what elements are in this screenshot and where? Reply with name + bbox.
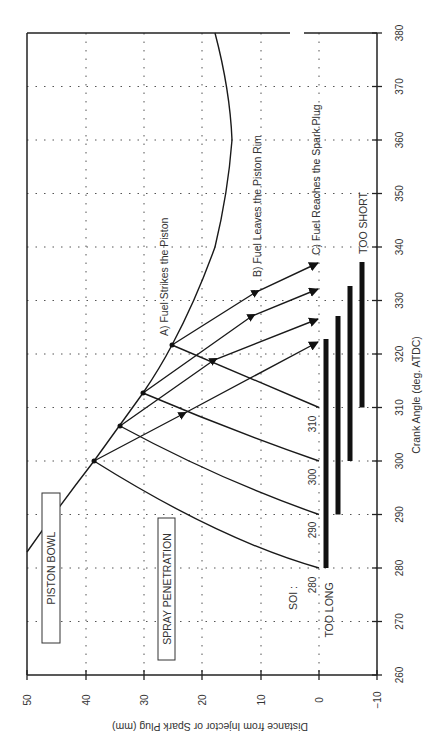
y-tick-10: 10	[256, 694, 267, 706]
spray-penetration-curves	[94, 345, 319, 568]
distance-tick-labels: 50 40 30 20 10 0 −10	[22, 691, 383, 708]
soi-300-label: 300	[307, 468, 318, 485]
too-short-label: TOO SHORT	[357, 191, 369, 254]
bar-soi-310	[360, 262, 365, 408]
x-tick-360: 360	[394, 131, 405, 148]
piston-bowl-curve	[27, 33, 232, 552]
y-axis-title: Distance from Injector or Spark Plug (mm…	[112, 721, 308, 733]
x-tick-260: 260	[394, 666, 405, 683]
svg-text:SPRAY PENETRATION: SPRAY PENETRATION	[161, 533, 173, 644]
x-tick-380: 380	[394, 24, 405, 41]
x-tick-370: 370	[394, 78, 405, 95]
x-axis-title: Crank Angle (deg. ATDC)	[410, 336, 422, 454]
y-tick-50: 50	[22, 694, 33, 706]
bar-soi-300	[348, 286, 353, 461]
soi-280-label: 280	[307, 576, 318, 593]
bar-soi-290	[336, 316, 341, 515]
y-tick-minus10: −10	[372, 691, 383, 708]
x-tick-300: 300	[394, 452, 405, 469]
x-tick-350: 350	[394, 185, 405, 202]
x-tick-280: 280	[394, 559, 405, 576]
y-tick-0: 0	[314, 697, 325, 703]
crank-tick-labels: 260 270 280 290 300 310 320 330 340 350 …	[394, 24, 405, 683]
chart-svg: 50 40 30 20 10 0 −10 260 270 280 290 300…	[0, 0, 426, 741]
annotation-a: A) Fuel Strikes the Piston	[158, 217, 170, 336]
duration-bars	[324, 262, 365, 568]
spray-penetration-label: SPRAY PENETRATION	[158, 518, 175, 660]
x-tick-330: 330	[394, 292, 405, 309]
y-tick-40: 40	[81, 694, 92, 706]
y-tick-30: 30	[139, 694, 150, 706]
soi-290-label: 290	[307, 521, 318, 538]
x-tick-270: 270	[394, 613, 405, 630]
x-tick-310: 310	[394, 399, 405, 416]
too-long-label: TOO LONG	[323, 582, 335, 637]
annotation-b: B) Fuel Leaves the Piston Rim	[251, 135, 263, 277]
bar-soi-280	[324, 339, 329, 568]
strike-points	[92, 343, 175, 464]
x-tick-290: 290	[394, 506, 405, 523]
x-tick-320: 320	[394, 345, 405, 362]
x-tick-340: 340	[394, 238, 405, 255]
soi-310-label: 310	[307, 415, 318, 432]
y-tick-20: 20	[197, 694, 208, 706]
annotation-c: C) Fuel Reaches the Spark Plug	[310, 104, 322, 255]
svg-text:PISTON BOWL: PISTON BOWL	[45, 531, 57, 604]
fuel-path-arrows	[94, 263, 318, 461]
piston-bowl-label: PISTON BOWL	[42, 493, 60, 643]
soi-label: SOI :	[287, 586, 299, 610]
